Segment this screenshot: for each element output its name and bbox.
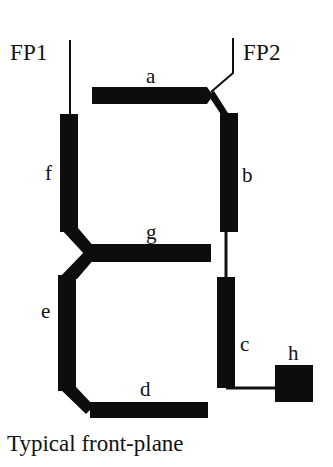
segment-label-e: e: [41, 301, 50, 322]
segment-b-upper-right-bar: [220, 113, 238, 232]
segment-e-lower-left-bar: [58, 275, 76, 391]
segment-e-to-segment-d-link: [58, 387, 94, 414]
segment-h-decimal-point-pad: [275, 365, 313, 402]
segment-group: [58, 87, 313, 418]
segment-d-bottom-bar: [90, 402, 208, 418]
segment-label-f: f: [45, 163, 52, 184]
segment-label-d: d: [140, 379, 151, 400]
fp2-lead-line: [211, 38, 233, 92]
seven-segment-display-diagram: [0, 0, 333, 467]
front-plane-figure: FP1FP2 abcdefgh Typical front-plane: [0, 0, 333, 467]
segment-a-top-bar: [92, 87, 213, 104]
figure-caption: Typical front-plane: [7, 432, 184, 455]
segment-label-g: g: [146, 222, 157, 243]
segment-label-h: h: [288, 343, 299, 364]
segment-label-a: a: [146, 66, 155, 87]
segment-c-lower-right-bar: [217, 277, 235, 388]
pad-label-fp2: FP2: [243, 41, 281, 64]
segment-g-middle-bar: [86, 244, 211, 262]
segment-label-c: c: [240, 334, 249, 355]
segment-f-upper-left-bar: [60, 114, 78, 232]
segment-label-b: b: [242, 165, 253, 186]
pad-label-fp1: FP1: [10, 41, 48, 64]
